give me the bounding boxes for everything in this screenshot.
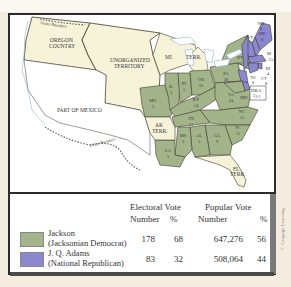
candidate-party: (Jacksonian Democrat) — [48, 238, 127, 248]
svg-text:4: 4 — [267, 71, 270, 76]
svg-text:MD: MD — [240, 95, 248, 100]
svg-text:COUNTRY: COUNTRY — [49, 43, 75, 49]
electoral-number: 178 — [135, 234, 155, 244]
results-legend: Electoral Vote Popular Vote Number % Num… — [10, 192, 274, 274]
svg-text:14: 14 — [194, 103, 199, 108]
popular-percent: 56 — [250, 234, 266, 244]
electoral-percent-header: % — [170, 214, 178, 224]
popular-vote-header: Popular Vote — [205, 202, 251, 212]
svg-text:NC: NC — [239, 109, 245, 114]
svg-text:28: 28 — [224, 77, 229, 82]
svg-text:TN: TN — [188, 116, 195, 121]
electoral-percent: 68 — [163, 234, 183, 244]
svg-text:TERRITORY: TERRITORY — [114, 63, 144, 69]
svg-text:AL: AL — [196, 133, 202, 138]
state-ri — [258, 63, 262, 69]
svg-text:KY: KY — [193, 97, 200, 102]
candidate-party: (National Republican) — [48, 258, 124, 268]
popular-number: 508,064 — [203, 254, 243, 264]
svg-text:TERR.: TERR. — [186, 54, 202, 60]
svg-text:GA: GA — [214, 133, 221, 138]
page-top-strip — [0, 0, 291, 12]
jackson-color-swatch — [20, 232, 44, 247]
svg-text:NY: NY — [237, 55, 244, 60]
popular-number-header: Number — [198, 214, 228, 224]
legend-row-jackson: Jackson (Jacksonian Democrat) 178 68 647… — [20, 228, 270, 250]
popular-percent: 44 — [250, 254, 266, 264]
svg-text:24: 24 — [229, 98, 234, 103]
svg-text:8: 8 — [252, 80, 255, 85]
svg-text:MO: MO — [149, 98, 157, 103]
svg-text:TERR.: TERR. — [230, 171, 246, 177]
svg-text:TERR.: TERR. — [152, 128, 168, 134]
svg-text:A-6: A-6 — [255, 88, 261, 93]
svg-text:J-5: J-5 — [256, 94, 261, 99]
svg-text:Treaty Boundary: Treaty Boundary — [89, 136, 116, 148]
electoral-number: 83 — [135, 254, 155, 264]
candidate-name: Jackson — [48, 228, 127, 238]
svg-text:ME: ME — [259, 31, 266, 36]
svg-text:16: 16 — [199, 83, 204, 88]
legend-shadow — [270, 194, 276, 274]
svg-text:IN: IN — [182, 81, 187, 86]
popular-percent-header: % — [260, 214, 268, 224]
svg-text:SC: SC — [235, 125, 241, 130]
svg-text:MS: MS — [180, 133, 187, 138]
copyright-notice: © Cengage Learning — [280, 208, 285, 250]
popular-number: 647,276 — [203, 234, 243, 244]
svg-text:VA: VA — [228, 92, 235, 97]
adams-color-swatch — [20, 252, 44, 267]
svg-text:20: 20 — [238, 61, 243, 66]
election-map-frame: OREGON COUNTRY UNORGANIZED TERRITORY PAR… — [8, 13, 276, 275]
electoral-percent: 32 — [163, 254, 183, 264]
svg-text:8: 8 — [265, 81, 268, 86]
svg-text:MI: MI — [165, 54, 172, 60]
electoral-vote-header: Electoral Vote — [130, 202, 181, 212]
svg-text:M: M — [267, 51, 271, 56]
candidate-name: J. Q. Adams — [48, 248, 124, 258]
svg-text:PART OF MEXICO: PART OF MEXICO — [57, 107, 102, 113]
svg-text:PA: PA — [223, 71, 229, 76]
svg-text:OH: OH — [198, 77, 205, 82]
svg-text:11: 11 — [189, 122, 193, 127]
legend-row-adams: J. Q. Adams (National Republican) 83 32 … — [20, 248, 270, 270]
electoral-number-header: Number — [130, 214, 160, 224]
svg-text:15: 15 — [269, 57, 274, 62]
svg-text:IL: IL — [169, 84, 173, 89]
svg-text:11: 11 — [236, 131, 240, 136]
jackson-label: Jackson (Jacksonian Democrat) — [48, 228, 127, 248]
svg-text:15: 15 — [240, 115, 245, 120]
state-ct — [248, 63, 258, 73]
adams-label: J. Q. Adams (National Republican) — [48, 248, 124, 268]
legend-bottom-border — [10, 272, 274, 276]
svg-text:LA: LA — [165, 148, 172, 153]
us-map: OREGON COUNTRY UNORGANIZED TERRITORY PAR… — [10, 15, 274, 193]
